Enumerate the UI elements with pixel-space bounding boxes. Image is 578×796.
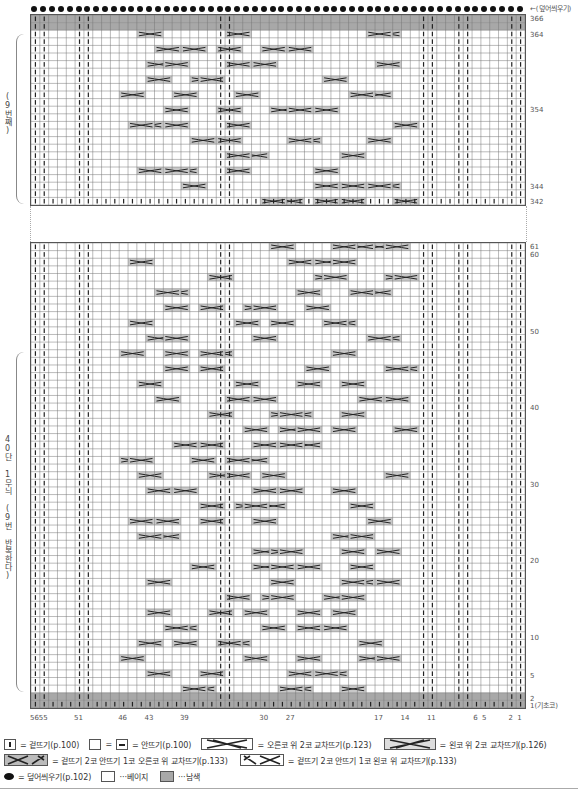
legend-navy: ···남색 [178, 771, 200, 782]
column-label: 30 [259, 714, 268, 722]
beige-swatch-icon [101, 771, 115, 782]
bind-off-dot [137, 6, 143, 12]
bind-off-dot [428, 6, 434, 12]
bind-off-dot [314, 6, 320, 12]
column-label: 17 [374, 714, 383, 722]
bind-off-dot [190, 6, 196, 12]
side-label-repeat: 40단 1무늬 (9번 반복한다) [2, 435, 12, 585]
bind-off-dot [323, 6, 329, 12]
knit-symbol-icon [4, 739, 16, 750]
bind-off-dot [358, 6, 364, 12]
bind-off-dot [67, 6, 73, 12]
legend-right-cross-2: = 오른코 위 2코 교차뜨기(p.123) [257, 739, 371, 750]
bind-off-dot [464, 6, 470, 12]
bind-off-label: ←(덮어씌우기) [530, 5, 571, 13]
bind-off-dot [402, 6, 408, 12]
bind-off-dot [490, 6, 496, 12]
bind-off-dot [499, 6, 505, 12]
left-cross-2-icon [384, 738, 436, 750]
column-label: 14 [400, 714, 409, 722]
bind-off-dot [128, 6, 134, 12]
bind-off-dot [243, 6, 249, 12]
bind-off-dot [93, 6, 99, 12]
page-bottom-rule [0, 788, 578, 789]
legend-row-2: = 겉뜨기 2코 안뜨기 1코 오른코 위 교차뜨기(p.133) = 겉뜨기 … [4, 754, 457, 766]
row-label-20: 20 [530, 557, 539, 565]
row-label-364: 364 [530, 31, 543, 39]
legend-bind-off: = 덮어씌우기(p.102) [18, 771, 91, 782]
bind-off-dot [120, 6, 126, 12]
bind-off-dot [155, 6, 161, 12]
bind-off-dot [367, 6, 373, 12]
chart-grid-bottom [30, 242, 526, 709]
bind-off-dots-row [30, 6, 526, 14]
row-label-40: 40 [530, 404, 539, 412]
bind-off-dot [375, 6, 381, 12]
row-label-10: 10 [530, 634, 539, 642]
bind-off-dot [278, 6, 284, 12]
bind-off-dot [181, 6, 187, 12]
legend-knit: = 겉뜨기(p.100) [20, 739, 79, 750]
k2p1-left-cross-icon [240, 754, 284, 766]
bind-off-dot [384, 6, 390, 12]
side-label-9th: (9번째) [2, 92, 12, 135]
bind-off-dot [508, 6, 514, 12]
bind-off-dot [199, 6, 205, 12]
legend-row-1: = 겉뜨기(p.100) = = 안뜨기(p.100) = 오른코 위 2코 교… [4, 738, 547, 750]
purl-symbol-icon [116, 739, 128, 750]
column-label: 55 [39, 714, 48, 722]
bind-off-dot [84, 6, 90, 12]
bind-off-dot [234, 6, 240, 12]
bind-off-dot [225, 6, 231, 12]
gap-line-left [30, 206, 31, 242]
gap-line-right [526, 206, 527, 242]
bind-off-dot [173, 6, 179, 12]
bind-off-dot [146, 6, 152, 12]
bind-off-dot [331, 6, 337, 12]
bind-off-dot [420, 6, 426, 12]
column-label: 39 [180, 714, 189, 722]
legend-beige: ···베이지 [119, 771, 148, 782]
bind-off-dot [446, 6, 452, 12]
row-label-50: 50 [530, 328, 539, 336]
column-label: 2 [509, 714, 513, 722]
column-label: 5 [482, 714, 486, 722]
bind-off-dot [349, 6, 355, 12]
chart-grid-top [30, 14, 526, 206]
legend-row-3: = 덮어씌우기(p.102) ···베이지 ···남색 [4, 771, 200, 782]
row-label-342: 342 [530, 198, 543, 206]
bind-off-dot [481, 6, 487, 12]
column-label: 11 [427, 714, 436, 722]
bind-off-dot [58, 6, 64, 12]
column-label: 6 [473, 714, 477, 722]
bind-off-dot [164, 6, 170, 12]
bind-off-dot [411, 6, 417, 12]
row-label-61: 61 [530, 243, 539, 251]
bind-off-dot [287, 6, 293, 12]
bind-off-dot [437, 6, 443, 12]
column-label: 1 [517, 714, 521, 722]
bind-off-dot [305, 6, 311, 12]
navy-swatch-icon [160, 771, 174, 782]
bind-off-dot [270, 6, 276, 12]
bind-off-dot [472, 6, 478, 12]
bind-off-dot [393, 6, 399, 12]
row-label-1: 1(기초코) [530, 702, 558, 710]
legend-left-cross-2: = 왼코 위 2코 교차뜨기(p.126) [440, 739, 547, 750]
bind-off-dot [31, 6, 37, 12]
bind-off-dot-icon [4, 773, 14, 780]
row-label-354: 354 [530, 106, 543, 114]
bind-off-dot [340, 6, 346, 12]
bind-off-dot [517, 6, 523, 12]
legend-purl-eq: = [105, 740, 112, 749]
column-label: 46 [118, 714, 127, 722]
bind-off-dot [261, 6, 267, 12]
row-label-30: 30 [530, 481, 539, 489]
legend-purl: = 안뜨기(p.100) [132, 739, 191, 750]
brace-top-section [16, 34, 26, 204]
bind-off-dot [217, 6, 223, 12]
bind-off-dot [296, 6, 302, 12]
bind-off-dot [252, 6, 258, 12]
row-label-5: 5 [530, 672, 534, 680]
legend-k2p1-right: = 겉뜨기 2코 안뜨기 1코 오른코 위 교차뜨기(p.133) [52, 755, 228, 766]
